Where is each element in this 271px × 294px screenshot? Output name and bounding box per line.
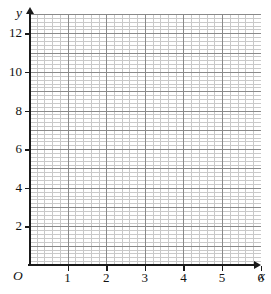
y-tick-label: 2 [0,218,22,234]
graph-paper-grid [29,14,261,265]
y-tick-mark [25,33,30,34]
x-tick-label: 3 [133,270,157,286]
y-tick-mark [25,149,30,150]
y-tick-mark [25,226,30,227]
y-axis-label: y [16,5,22,21]
y-axis-line [29,12,31,266]
y-axis-arrow-icon [26,7,34,14]
y-tick-label: 10 [0,64,22,80]
y-tick-label: 8 [0,103,22,119]
y-tick-mark [25,72,30,73]
y-tick-label: 6 [0,141,22,157]
y-tick-label: 12 [0,25,22,41]
x-tick-label: 5 [210,270,234,286]
x-tick-label: 1 [56,270,80,286]
x-tick-label: 4 [171,270,195,286]
origin-label: O [13,268,23,284]
y-tick-mark [25,188,30,189]
coordinate-grid-figure: 123456 24681012 O y x [0,0,271,294]
x-axis-label: x [259,268,265,284]
y-tick-label: 4 [0,180,22,196]
y-tick-mark [25,111,30,112]
x-tick-label: 2 [94,270,118,286]
